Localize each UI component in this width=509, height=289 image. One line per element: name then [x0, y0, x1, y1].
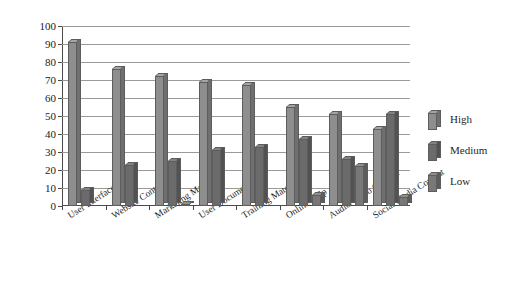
legend-label: Medium [450, 144, 487, 156]
y-tick-label: 70 [45, 75, 56, 86]
bar-side-face [264, 144, 268, 203]
x-tick-mark [62, 206, 63, 210]
y-tick-label: 0 [51, 201, 57, 212]
swatch-front-face [428, 175, 437, 192]
bar-high [242, 85, 251, 206]
x-tick-mark [193, 206, 194, 210]
y-tick-label: 50 [45, 111, 56, 122]
x-tick-mark [106, 206, 107, 210]
bar-side-face [364, 163, 368, 203]
bar-high [199, 82, 208, 206]
bar-front-face [181, 204, 190, 206]
bar-side-face [295, 104, 299, 203]
y-tick-label: 90 [45, 39, 56, 50]
bar-side-face [395, 111, 399, 203]
y-tick-label: 20 [45, 165, 56, 176]
bar-low [312, 195, 321, 206]
legend-swatch-icon [428, 141, 437, 158]
bar-front-face [255, 147, 264, 206]
x-tick-mark [323, 206, 324, 210]
bar-front-face [199, 82, 208, 206]
bar-high [68, 42, 77, 206]
swatch-side-face [437, 141, 441, 158]
bar-side-face [408, 194, 412, 203]
x-tick-mark [149, 206, 150, 210]
bar-group [367, 26, 411, 206]
y-tick-label: 40 [45, 129, 56, 140]
bar-group [323, 26, 367, 206]
legend-swatch-icon [428, 172, 437, 189]
y-tick-label: 100 [40, 21, 57, 32]
y-tick-label: 80 [45, 57, 56, 68]
bar-high [155, 76, 164, 206]
swatch-side-face [437, 110, 441, 127]
bar-side-face [208, 79, 212, 203]
bar-front-face [242, 85, 251, 206]
bar-medium [255, 147, 264, 206]
legend-label: High [450, 113, 472, 125]
legend-item-low[interactable]: Low [428, 170, 508, 201]
bar-low [355, 166, 364, 206]
bar-side-face [351, 156, 355, 203]
y-tick-label: 10 [45, 183, 56, 194]
plot-area: 1009080706050403020100 [62, 26, 410, 206]
bar-side-face [177, 158, 181, 203]
bar-high [112, 69, 121, 206]
bar-group [193, 26, 237, 206]
y-tick-label: 60 [45, 93, 56, 104]
bar-group [149, 26, 193, 206]
y-tick-label: 30 [45, 147, 56, 158]
bar-side-face [90, 187, 94, 203]
bar-side-face [321, 192, 325, 203]
legend-swatch-icon [428, 110, 437, 127]
bar-front-face [125, 165, 134, 206]
bar-high [329, 114, 338, 206]
bar-side-face [251, 82, 255, 203]
chart-legend: HighMediumLow [428, 108, 508, 201]
bar-side-face [164, 73, 168, 203]
bar-front-face [168, 161, 177, 206]
bar-medium [212, 150, 221, 206]
bar-medium [168, 161, 177, 206]
bar-side-face [134, 162, 138, 203]
swatch-front-face [428, 144, 437, 161]
legend-item-high[interactable]: High [428, 108, 508, 139]
legend-label: Low [450, 175, 470, 187]
bar-front-face [373, 129, 382, 206]
bar-side-face [221, 147, 225, 203]
bar-side-face [308, 136, 312, 203]
bar-front-face [286, 107, 295, 206]
bar-medium [125, 165, 134, 206]
swatch-front-face [428, 113, 437, 130]
bar-front-face [399, 197, 408, 206]
legend-item-medium[interactable]: Medium [428, 139, 508, 170]
chart-figure: 1009080706050403020100 User Interface Te… [0, 0, 509, 289]
bar-front-face [81, 190, 90, 206]
bar-front-face [299, 139, 308, 206]
bar-front-face [329, 114, 338, 206]
bar-front-face [355, 166, 364, 206]
bar-low [399, 197, 408, 206]
bar-group [236, 26, 280, 206]
bar-medium [386, 114, 395, 206]
x-tick-mark [367, 206, 368, 210]
bar-front-face [342, 159, 351, 206]
bar-front-face [312, 195, 321, 206]
bar-side-face [77, 39, 81, 203]
bar-front-face [68, 42, 77, 206]
bar-side-face [121, 66, 125, 203]
bar-group [106, 26, 150, 206]
bar-group [62, 26, 106, 206]
bar-side-face [338, 111, 342, 203]
bar-side-face [190, 201, 194, 203]
bar-medium [81, 190, 90, 206]
bar-high [373, 129, 382, 206]
bar-medium [299, 139, 308, 206]
swatch-side-face [437, 172, 441, 189]
bar-side-face [382, 126, 386, 203]
bar-front-face [386, 114, 395, 206]
bar-low [181, 204, 190, 206]
bar-group [280, 26, 324, 206]
x-tick-mark [236, 206, 237, 210]
bar-front-face [112, 69, 121, 206]
